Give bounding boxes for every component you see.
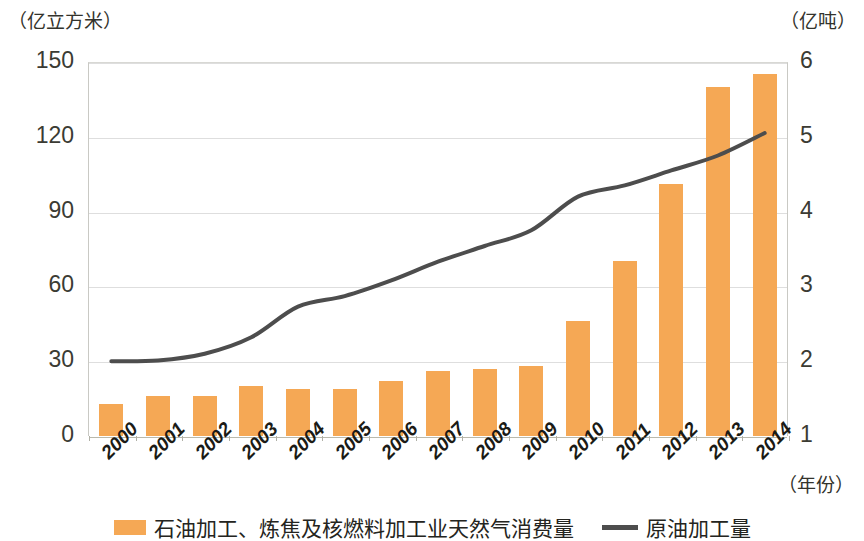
- left-axis-tick-label: 60: [4, 271, 74, 298]
- x-tick-mark: [89, 436, 90, 441]
- legend-label-crude-throughput: 原油加工量: [646, 512, 751, 541]
- line-series-svg: [88, 62, 788, 436]
- legend-item-gas-consumption: 石油加工、炼焦及核燃料加工业天然气消费量: [114, 512, 574, 541]
- right-axis-tick-label: 3: [800, 271, 840, 298]
- right-axis-tick-label: 1: [800, 421, 840, 448]
- chart-legend: 石油加工、炼焦及核燃料加工业天然气消费量 原油加工量: [0, 512, 864, 541]
- right-axis-tick-label: 4: [800, 197, 840, 224]
- legend-label-gas-consumption: 石油加工、炼焦及核燃料加工业天然气消费量: [154, 512, 574, 541]
- left-axis-tick-label: 90: [4, 197, 74, 224]
- chart-container: （亿立方米） （亿吨） 0306090120150 123456 2000200…: [0, 0, 864, 541]
- legend-item-crude-throughput: 原油加工量: [602, 512, 751, 541]
- right-axis-unit-label: （亿吨）: [780, 6, 856, 33]
- legend-line-swatch-icon: [602, 525, 638, 530]
- left-axis-tick-label: 30: [4, 346, 74, 373]
- crude-throughput-line: [111, 133, 764, 361]
- right-axis-tick-label: 2: [800, 346, 840, 373]
- left-axis-tick-label: 0: [4, 421, 74, 448]
- left-axis-tick-label: 150: [4, 47, 74, 74]
- right-axis-tick-label: 6: [800, 47, 840, 74]
- x-axis-title: （年份）: [778, 470, 854, 497]
- left-axis-unit-label: （亿立方米）: [8, 6, 122, 33]
- right-axis-tick-label: 5: [800, 122, 840, 149]
- legend-bar-swatch-icon: [114, 520, 146, 535]
- left-axis-tick-label: 120: [4, 122, 74, 149]
- line-series-layer: [88, 62, 788, 436]
